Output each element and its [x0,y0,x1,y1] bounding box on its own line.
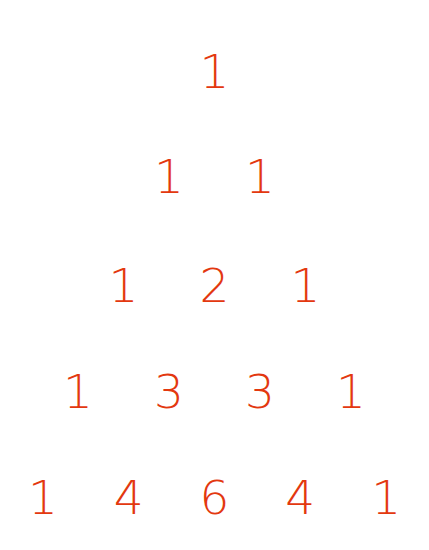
pascal-cell: 1 [78,262,169,309]
pascal-cell: 1 [33,368,124,415]
pascal-cell: 1 [306,368,397,415]
pascals-triangle-figure: 1 1 1 1 2 1 1 3 3 1 1 4 6 4 1 [0,0,429,550]
pascal-cell: 1 [260,262,351,309]
pascal-cell: 1 [343,474,429,521]
pascal-cell: 3 [124,368,215,415]
pascal-cell: 2 [169,262,260,309]
pascal-cell: 1 [124,153,215,200]
pascal-cell: 4 [86,474,172,521]
pascal-cell: 3 [215,368,306,415]
pascal-cell: 1 [169,48,260,95]
pascal-cell: 6 [172,474,258,521]
pascal-cell: 4 [257,474,343,521]
pascal-cell: 1 [215,153,306,200]
pascal-cell: 1 [0,474,86,521]
